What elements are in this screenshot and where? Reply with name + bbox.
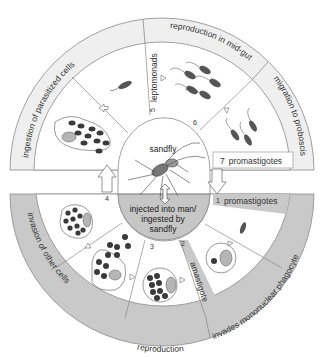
stage-4-num: 4	[105, 195, 109, 202]
reproduction-cell-icon	[143, 268, 177, 302]
stage-3-num: 3	[150, 243, 154, 250]
life-cycle-diagram: ingestion of parasitized cells reproduct…	[0, 0, 320, 357]
stage-5-label: leptomonads	[149, 53, 159, 102]
arrow-7-down-icon	[208, 169, 226, 194]
stage-7-label-num: 7promastigotes	[220, 156, 282, 166]
stage-1-num: 1	[216, 197, 220, 204]
stage-5-num: 5	[149, 108, 156, 112]
center-bottom-line3: sandfly	[150, 224, 178, 234]
infected-cell-icon	[60, 205, 93, 239]
center-bottom-line2: ingested by	[141, 214, 185, 224]
stage-2-num: 2	[181, 240, 185, 247]
center-bottom-line1: injected into man/	[130, 204, 197, 214]
center-top-label: sandfly	[150, 144, 178, 154]
stage-1-label: promastigotes	[224, 196, 277, 206]
stage-6-num: 6	[193, 119, 197, 126]
